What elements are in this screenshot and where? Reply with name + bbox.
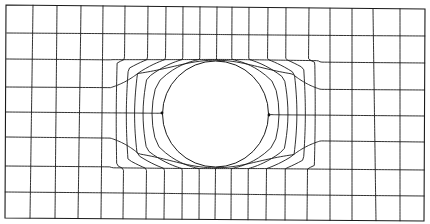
mesh-vertical-line (373, 9, 376, 221)
mesh-vertical-line (307, 8, 315, 220)
mesh-vertical-line (266, 8, 297, 220)
right-tip-node (268, 114, 271, 117)
mesh-horizontal-line (5, 192, 424, 196)
mesh-horizontal-line (7, 33, 425, 36)
mesh-vertical-line (116, 6, 125, 219)
circular-hole (163, 61, 269, 167)
left-tip-node (161, 112, 164, 115)
mesh-vertical-line (101, 6, 103, 219)
mesh-diagram (0, 0, 430, 224)
mesh-vertical-line (30, 5, 33, 218)
mesh-vertical-line (55, 5, 57, 218)
mesh-vertical-line (78, 6, 81, 219)
